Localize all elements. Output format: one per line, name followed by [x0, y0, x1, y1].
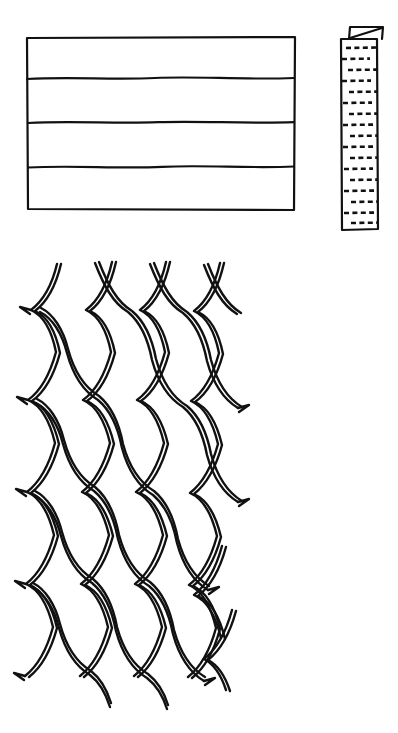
figure-sheet: [0, 0, 398, 733]
line-art-canvas: [0, 0, 398, 733]
band-divider-2: [28, 122, 294, 123]
band-divider-1: [27, 77, 294, 79]
band-divider-3: [28, 166, 294, 167]
